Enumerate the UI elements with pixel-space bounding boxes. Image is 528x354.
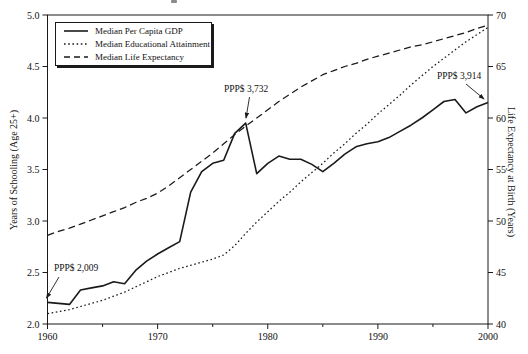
annotation-ppp-2009: PPP$ 2,009 bbox=[54, 263, 98, 273]
left-axis-title: Years of Schooling (Age 25+) bbox=[8, 110, 19, 230]
x-tick-label: 1960 bbox=[38, 331, 58, 342]
cropped-title-fragment bbox=[171, 0, 177, 3]
right-tick-label: 55 bbox=[496, 164, 506, 175]
legend-item-education: Median Educational Attainment bbox=[64, 38, 211, 49]
right-tick-label: 70 bbox=[496, 10, 506, 21]
annotation-ppp-3732: PPP$ 3,732 bbox=[224, 84, 268, 94]
right-tick-label: 60 bbox=[496, 113, 506, 124]
left-tick-label: 5.0 bbox=[27, 10, 40, 21]
x-tick-label: 2000 bbox=[478, 331, 498, 342]
dotted-line-sample-icon bbox=[64, 42, 88, 46]
x-tick-label: 1980 bbox=[258, 331, 278, 342]
annotation-ppp-3914: PPP$ 3,914 bbox=[437, 71, 481, 81]
annotation-arrow-0 bbox=[47, 277, 60, 298]
right-tick-label: 40 bbox=[496, 319, 506, 330]
left-tick-label: 2.5 bbox=[27, 267, 40, 278]
legend-label-education: Median Educational Attainment bbox=[95, 39, 210, 49]
x-tick-label: 1970 bbox=[148, 331, 168, 342]
dashed-line-sample-icon bbox=[64, 55, 88, 59]
chart-figure: 2.02.53.03.54.04.55.04045505560657019601… bbox=[0, 0, 528, 354]
legend-label-life-expectancy: Median Life Expectancy bbox=[95, 52, 184, 62]
annotation-arrow-2 bbox=[466, 84, 484, 99]
left-tick-label: 4.5 bbox=[27, 61, 40, 72]
series-line-1 bbox=[48, 27, 489, 313]
left-tick-label: 3.0 bbox=[27, 216, 40, 227]
right-tick-label: 50 bbox=[496, 216, 506, 227]
annotation-arrow-1 bbox=[246, 97, 250, 118]
left-tick-label: 4.0 bbox=[27, 113, 40, 124]
left-tick-label: 3.5 bbox=[27, 164, 40, 175]
legend: Median Per Capita GDP Median Educational… bbox=[55, 22, 212, 66]
right-axis-title: Life Expectancy at Birth (Years) bbox=[506, 107, 517, 237]
right-tick-label: 45 bbox=[496, 267, 506, 278]
left-tick-label: 2.0 bbox=[27, 319, 40, 330]
solid-line-sample-icon bbox=[64, 29, 88, 33]
right-tick-label: 65 bbox=[496, 61, 506, 72]
legend-label-gdp: Median Per Capita GDP bbox=[95, 26, 183, 36]
legend-item-gdp: Median Per Capita GDP bbox=[64, 25, 211, 36]
legend-item-life-expectancy: Median Life Expectancy bbox=[64, 52, 211, 63]
series-line-0 bbox=[48, 100, 489, 305]
x-tick-label: 1990 bbox=[368, 331, 388, 342]
